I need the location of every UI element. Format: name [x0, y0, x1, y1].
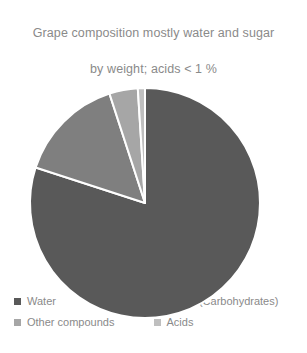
chart-title-line-2: by weight; acids < 1 %	[90, 62, 217, 76]
pie-plot-area	[0, 78, 307, 295]
pie-slice-group	[30, 88, 260, 318]
pie-chart-figure: Grape composition mostly water and sugar…	[0, 0, 307, 353]
chart-title: Grape composition mostly water and sugar…	[0, 0, 307, 78]
chart-title-line-1: Grape composition mostly water and sugar	[33, 26, 275, 40]
pie-svg	[0, 78, 307, 326]
